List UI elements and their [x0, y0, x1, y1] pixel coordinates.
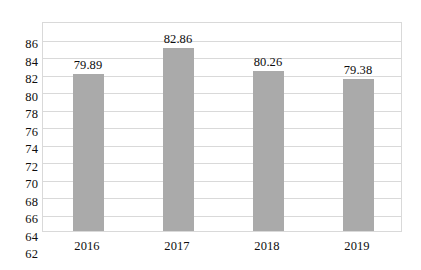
- y-axis: 86848280787674727068666462: [0, 22, 38, 232]
- bar-2019: [343, 79, 374, 231]
- y-tick-label: 84: [0, 55, 38, 68]
- y-tick-label: 74: [0, 143, 38, 156]
- y-tick-label: 66: [0, 213, 38, 226]
- gridline: [43, 41, 401, 42]
- bar-2017: [163, 48, 194, 231]
- bar-value-label-2017: 82.86: [164, 33, 193, 46]
- x-tick-label-2018: 2018: [254, 239, 279, 253]
- y-tick-label: 76: [0, 125, 38, 138]
- y-tick-label: 70: [0, 178, 38, 191]
- y-tick-label: 68: [0, 195, 38, 208]
- y-tick-label: 78: [0, 108, 38, 121]
- y-tick-label: 72: [0, 160, 38, 173]
- y-tick-label: 64: [0, 230, 38, 243]
- bar-value-label-2016: 79.89: [74, 59, 103, 72]
- x-tick-label-2019: 2019: [344, 239, 369, 253]
- plot-area: 79.8982.8680.2679.38: [42, 22, 402, 232]
- bar-2016: [73, 74, 104, 231]
- bar-2018: [253, 71, 284, 231]
- y-tick-label: 62: [0, 248, 38, 261]
- x-axis: 2016201720182019: [42, 239, 402, 257]
- y-tick-label: 80: [0, 90, 38, 103]
- y-tick-label: 82: [0, 73, 38, 86]
- bar-value-label-2019: 79.38: [344, 64, 373, 77]
- x-tick-label-2017: 2017: [164, 239, 189, 253]
- bar-chart-figure: 86848280787674727068666462 79.8982.8680.…: [0, 0, 421, 270]
- x-tick-label-2016: 2016: [74, 239, 99, 253]
- y-tick-label: 86: [0, 38, 38, 51]
- bar-value-label-2018: 80.26: [254, 56, 283, 69]
